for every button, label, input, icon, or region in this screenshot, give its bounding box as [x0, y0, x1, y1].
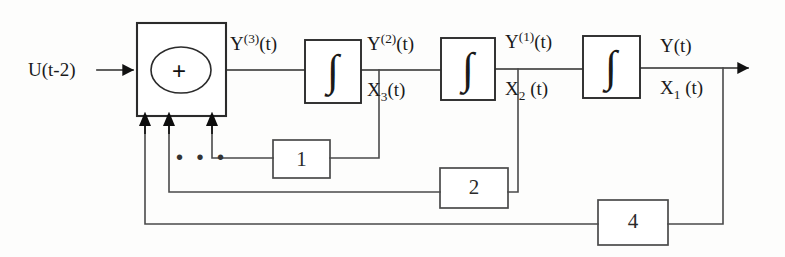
y1-base: Y	[505, 31, 519, 52]
signal-label-x2: X2 (t)	[505, 79, 548, 98]
signal-label-y2: Y(2)(t)	[367, 34, 414, 53]
signal-label-y1: Y(1)(t)	[505, 32, 552, 51]
input-label: U(t-2)	[28, 60, 75, 79]
gain-block-2-label: 2	[440, 175, 508, 200]
y1-arg: (t)	[534, 31, 552, 52]
output-label: Y(t)	[660, 36, 692, 55]
gain-block-4-label: 4	[598, 209, 668, 234]
ellipsis-label: • • •	[176, 146, 228, 169]
y3-base: Y	[230, 33, 244, 54]
y2-arg: (t)	[396, 33, 414, 54]
signal-label-y3: Y(3)(t)	[230, 34, 277, 53]
y2-base: Y	[367, 33, 381, 54]
x3-base: X	[367, 79, 381, 100]
x2-base: X	[505, 78, 519, 99]
signal-label-x3: X3(t)	[367, 80, 405, 99]
feedback-4-return-segment	[145, 124, 598, 224]
summing-junction-symbol: +	[172, 57, 186, 85]
gain-block-1-label: 1	[273, 147, 330, 172]
x3-arg: (t)	[387, 79, 405, 100]
y3-sup: (3)	[244, 31, 260, 46]
y3-arg: (t)	[259, 33, 277, 54]
x1-arg: (t)	[680, 77, 703, 98]
y2-sup: (2)	[381, 31, 397, 46]
x1-base: X	[660, 77, 674, 98]
x2-arg: (t)	[525, 78, 548, 99]
signal-label-x1: X1 (t)	[660, 78, 703, 97]
block-diagram-canvas: ∫ ∫ ∫ U(t-2) + Y(3)(t) Y(2)(t) X3(t) Y(1…	[0, 0, 785, 257]
y1-sup: (1)	[519, 29, 535, 44]
